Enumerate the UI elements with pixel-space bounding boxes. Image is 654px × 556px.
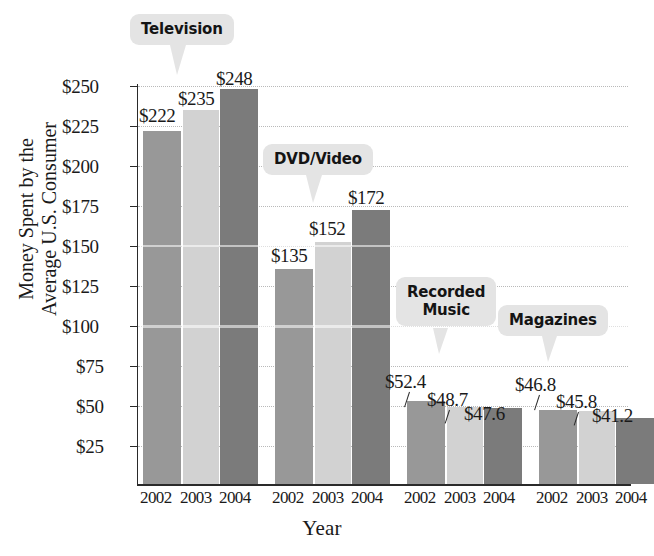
x-tick-label-magazines-2004: 2004 (615, 489, 647, 507)
bar-television-2004[interactable] (220, 89, 258, 484)
bars-layer (138, 86, 628, 484)
y-tick-75 (130, 366, 138, 367)
y-tick-50 (130, 406, 138, 407)
callout-dvdvideo: DVD/Video (263, 144, 373, 175)
callout-magazines-label: Magazines (498, 305, 608, 336)
bar-television-2003[interactable] (183, 110, 219, 484)
y-tick-100 (130, 326, 138, 327)
value-label-magazines-2003: $45.8 (556, 392, 597, 411)
y-tick-225 (130, 126, 138, 127)
value-label-television-2003: $235 (178, 89, 214, 108)
value-label-magazines-2004: $41.2 (592, 406, 633, 425)
y-axis-title-line2: Average U.S. Consumer (38, 89, 61, 349)
y-tick-175 (130, 206, 138, 207)
bar-dvdvideo-2004[interactable] (352, 210, 390, 484)
x-tick-label-television-2002: 2002 (140, 489, 172, 507)
value-label-recordedmusic-2002: $52.4 (385, 372, 426, 391)
x-axis-title: Year (0, 516, 644, 541)
y-axis-title: Money Spent by the Average U.S. Consumer (15, 89, 61, 349)
value-label-recordedmusic-2004: $47.6 (464, 404, 505, 423)
callout-recordedmusic: Recorded Music (396, 277, 496, 326)
callout-magazines: Magazines (498, 305, 608, 336)
y-axis-line (137, 84, 138, 486)
bar-magazines-2004[interactable] (616, 418, 654, 484)
callout-dvdvideo-label: DVD/Video (263, 144, 373, 175)
x-tick-label-recordedmusic-2003: 2003 (444, 489, 476, 507)
x-tick-label-magazines-2002: 2002 (536, 489, 568, 507)
y-tick-125 (130, 286, 138, 287)
value-label-dvdvideo-2004: $172 (348, 188, 384, 207)
callout-magazines-tail (542, 336, 557, 362)
value-label-dvdvideo-2002: $135 (271, 246, 307, 265)
callout-television: Television (130, 14, 234, 45)
value-label-television-2002: $222 (139, 106, 175, 125)
callout-television-label: Television (130, 14, 234, 45)
callout-television-tail (170, 45, 186, 75)
x-tick-label-television-2004: 2004 (219, 489, 251, 507)
value-label-magazines-2002: $46.8 (515, 375, 556, 394)
bar-dvdvideo-2003[interactable] (315, 242, 351, 484)
x-tick-label-television-2003: 2003 (180, 489, 212, 507)
x-tick-label-recordedmusic-2002: 2002 (404, 489, 436, 507)
value-label-recordedmusic-2003: $48.7 (427, 390, 468, 409)
x-tick-label-dvdvideo-2004: 2004 (351, 489, 383, 507)
y-tick-200 (130, 166, 138, 167)
value-label-television-2004: $248 (216, 69, 252, 88)
callout-dvdvideo-tail (306, 175, 322, 203)
y-axis-title-line1: Money Spent by the (15, 89, 38, 349)
x-axis-line (137, 484, 631, 486)
bar-dvdvideo-2002[interactable] (275, 269, 313, 484)
x-tick-label-magazines-2003: 2003 (576, 489, 608, 507)
value-label-dvdvideo-2003: $152 (309, 219, 345, 238)
x-tick-label-dvdvideo-2002: 2002 (272, 489, 304, 507)
x-tick-label-dvdvideo-2003: 2003 (312, 489, 344, 507)
callout-recordedmusic-label: Recorded Music (396, 277, 496, 326)
x-tick-label-recordedmusic-2004: 2004 (483, 489, 515, 507)
bar-television-2002[interactable] (143, 131, 181, 484)
y-tick-250 (130, 86, 138, 87)
bar-magazines-2002[interactable] (539, 410, 577, 485)
bar-recordedmusic-2002[interactable] (407, 401, 445, 484)
y-tick-25 (130, 446, 138, 447)
y-tick-150 (130, 246, 138, 247)
callout-recordedmusic-tail (433, 328, 448, 354)
